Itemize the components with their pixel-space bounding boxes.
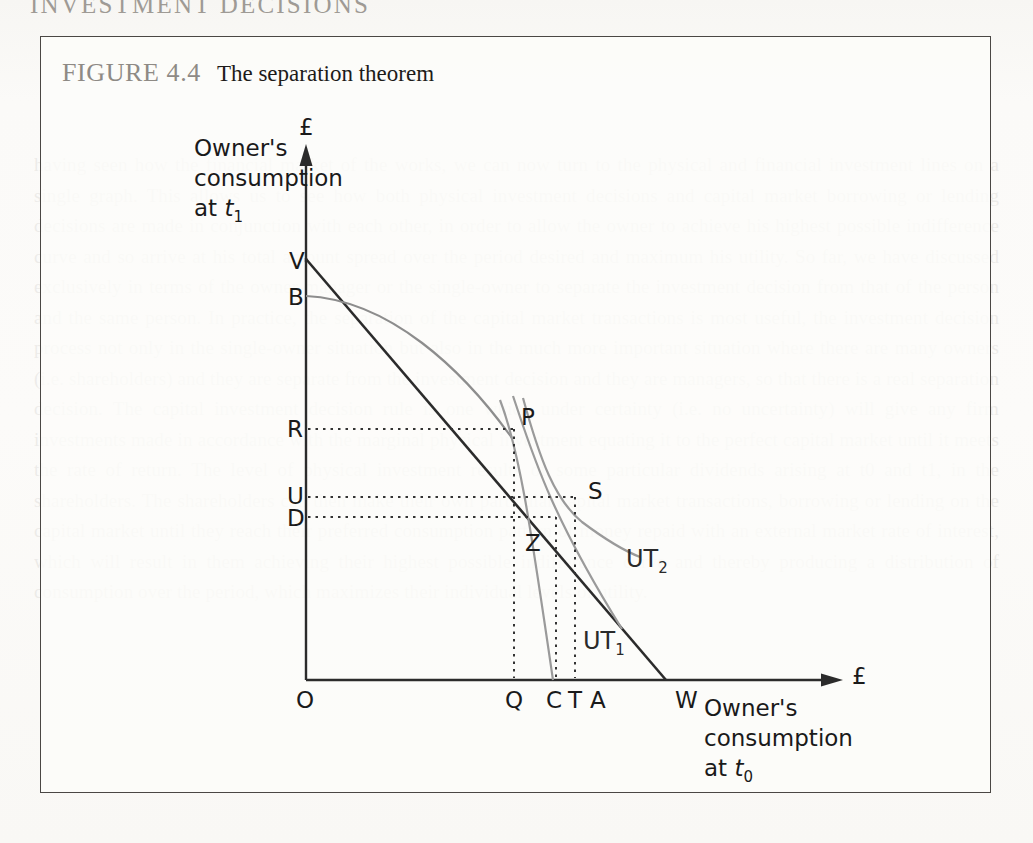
point-label-z: Z — [525, 530, 541, 556]
figure-caption: FIGURE 4.4The separation theorem — [62, 58, 434, 88]
x-axis-caption-prefix: at — [704, 755, 734, 781]
x-axis-unit-pound: £ — [852, 663, 867, 689]
curve-label-ut1-base: UT — [583, 627, 615, 655]
y-axis-caption-line3: at t1 — [194, 193, 343, 232]
y-axis-caption-line1: Owner's — [194, 133, 343, 163]
figure-frame — [40, 36, 991, 793]
x-tick-t: T — [568, 687, 582, 713]
x-axis-caption-line3: at t0 — [704, 753, 853, 792]
x-axis-caption: Owner's consumption at t0 — [704, 693, 853, 792]
y-tick-r: R — [287, 416, 303, 442]
x-tick-a: A — [590, 687, 606, 713]
y-axis-caption-line2: consumption — [194, 163, 343, 193]
point-label-p: P — [521, 404, 535, 430]
curve-label-ut2-sub: 2 — [658, 559, 668, 577]
x-axis-caption-line2: consumption — [704, 723, 853, 753]
x-axis-caption-sub: 0 — [743, 768, 753, 786]
running-head: INVESTMENT DECISIONS — [30, 0, 370, 19]
x-axis-caption-line1: Owner's — [704, 693, 853, 723]
figure-title: The separation theorem — [217, 61, 434, 86]
curve-label-ut2: UT2 — [626, 545, 668, 577]
point-label-s: S — [588, 478, 603, 504]
curve-label-ut1: UT1 — [583, 627, 625, 659]
x-tick-c: C — [546, 687, 562, 713]
x-tick-w: W — [675, 687, 698, 713]
curve-label-ut1-sub: 1 — [615, 641, 625, 659]
y-tick-v: V — [289, 248, 305, 274]
y-tick-d: D — [287, 505, 305, 531]
y-axis-caption-prefix: at — [194, 195, 224, 221]
y-axis-caption-sub: 1 — [233, 208, 243, 226]
x-tick-q: Q — [505, 687, 523, 713]
x-tick-o: O — [296, 687, 314, 713]
y-axis-caption: Owner's consumption at t1 — [194, 133, 343, 232]
curve-label-ut2-base: UT — [626, 545, 658, 573]
figure-number: FIGURE 4.4 — [62, 58, 201, 87]
y-tick-b: B — [288, 284, 304, 310]
